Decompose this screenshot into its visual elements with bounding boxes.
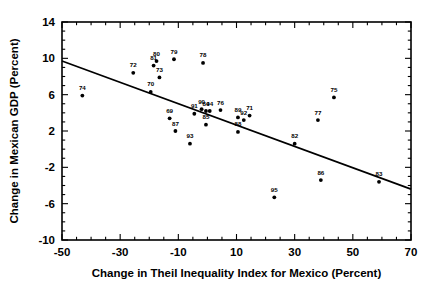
point-label: 81 bbox=[150, 54, 157, 61]
y-tick-label: -2 bbox=[45, 161, 55, 173]
data-point bbox=[248, 114, 252, 118]
point-label: 72 bbox=[130, 61, 137, 68]
data-point bbox=[168, 116, 172, 120]
point-label: 85 bbox=[203, 113, 210, 120]
data-point bbox=[174, 129, 178, 133]
point-label: 73 bbox=[156, 66, 163, 73]
data-point bbox=[293, 142, 297, 146]
point-label: 76 bbox=[217, 99, 224, 106]
x-tick-label: 30 bbox=[288, 246, 301, 258]
x-tick-label: 50 bbox=[346, 246, 359, 258]
data-point bbox=[200, 107, 204, 111]
point-label: 71 bbox=[246, 104, 253, 111]
point-label: 87 bbox=[172, 120, 179, 127]
y-tick-label: 14 bbox=[42, 16, 55, 28]
point-label: 95 bbox=[271, 186, 278, 193]
y-tick-label: -10 bbox=[38, 234, 55, 246]
data-point bbox=[316, 118, 320, 122]
point-label: 94 bbox=[206, 100, 213, 107]
point-label: 82 bbox=[291, 132, 298, 139]
scatter-plot: -50-30-1010305070-10-6-2261014Change in … bbox=[0, 0, 434, 296]
data-point bbox=[272, 195, 276, 199]
data-point bbox=[236, 115, 240, 119]
data-point bbox=[80, 94, 84, 98]
point-label: 93 bbox=[187, 132, 194, 139]
y-axis-title: Change in Mexican GDP (Percent) bbox=[8, 38, 20, 223]
chart-container: -50-30-1010305070-10-6-2261014Change in … bbox=[0, 0, 434, 296]
point-label: 86 bbox=[317, 169, 324, 176]
data-point bbox=[149, 90, 153, 94]
data-point bbox=[158, 76, 162, 80]
data-point bbox=[332, 95, 336, 99]
point-label: 88 bbox=[235, 120, 242, 127]
data-point bbox=[377, 180, 381, 184]
x-tick-label: -30 bbox=[112, 246, 129, 258]
data-point bbox=[152, 64, 156, 68]
data-point bbox=[201, 61, 205, 65]
point-label: 77 bbox=[314, 109, 321, 116]
x-tick-label: 10 bbox=[230, 246, 243, 258]
x-axis-title: Change in Theil Inequality Index for Mex… bbox=[92, 267, 382, 279]
data-point bbox=[192, 112, 196, 116]
point-label: 75 bbox=[330, 86, 337, 93]
data-point bbox=[236, 130, 240, 134]
data-point bbox=[131, 71, 135, 75]
data-point bbox=[172, 57, 176, 61]
y-tick-label: 6 bbox=[49, 89, 55, 101]
point-label: 83 bbox=[376, 170, 383, 177]
data-point bbox=[319, 178, 323, 182]
x-tick-label: -10 bbox=[170, 246, 187, 258]
y-tick-label: 10 bbox=[42, 52, 55, 64]
point-label: 74 bbox=[79, 84, 86, 91]
data-point bbox=[219, 108, 223, 112]
data-point bbox=[242, 118, 246, 122]
point-label: 79 bbox=[171, 48, 178, 55]
data-point bbox=[204, 123, 208, 127]
point-label: 69 bbox=[166, 107, 173, 114]
y-tick-label: -6 bbox=[45, 198, 55, 210]
data-point bbox=[188, 142, 192, 146]
y-tick-label: 2 bbox=[49, 125, 55, 137]
point-label: 70 bbox=[147, 80, 154, 87]
x-tick-label: -50 bbox=[54, 246, 71, 258]
point-label: 78 bbox=[200, 51, 207, 58]
x-tick-label: 70 bbox=[405, 246, 418, 258]
